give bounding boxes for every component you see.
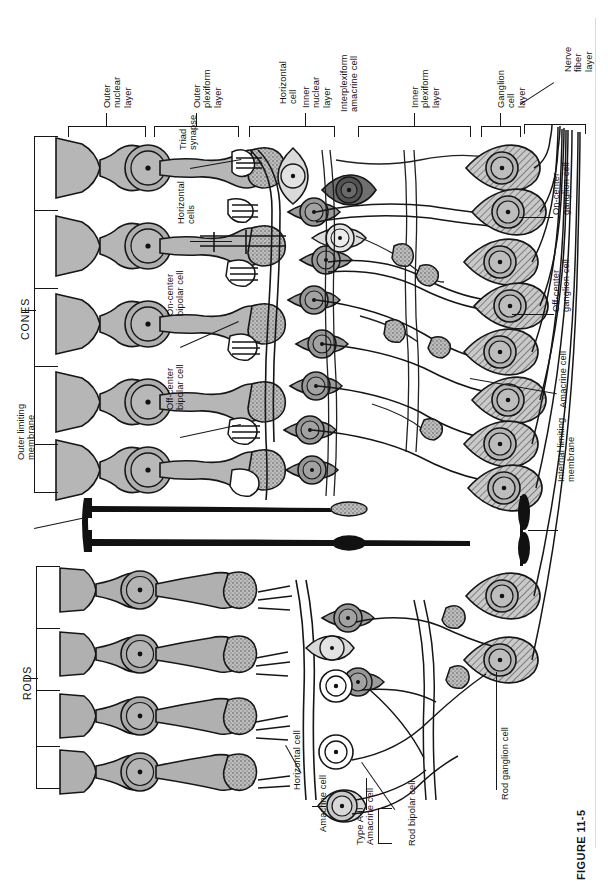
label-line: Inner (410, 86, 420, 108)
label-line: layer (123, 87, 133, 108)
label-off-center-ganglion-cell: Off-center ganglion cell (551, 220, 572, 312)
label-line: Nerve (563, 47, 573, 72)
label-nerve-fiber-layer: Nerve fiber layer (563, 2, 594, 72)
label-internal-limiting-membrane: Internal limiting membrane (556, 386, 577, 482)
label-amacrine-cell-bottom: Amacrine cell (318, 775, 328, 832)
label-line: RODS (21, 666, 33, 700)
label-line: nuclear (112, 77, 122, 108)
label-on-center-ganglion-cell: On-center ganglion cell (551, 125, 572, 215)
label-line: Ganglion (496, 70, 506, 108)
inner-nuclear-layer-cells (278, 148, 492, 484)
leader-off-center-ganglion-cell (512, 314, 554, 315)
label-line: Type A-II (355, 807, 365, 845)
label-horizontal-cells: Horizontal cells (176, 158, 197, 224)
label-rod-ganglion-cell: Rod ganglion cell (500, 727, 510, 800)
label-inner-nuclear-layer: Inner nuclear layer (301, 38, 332, 108)
rod-outer-plexiform-layer (256, 580, 316, 800)
label-line: On-center (165, 274, 175, 316)
label-line: Amacrine cell (318, 775, 328, 832)
leader-internal-limiting-membrane (528, 530, 558, 531)
label-interplexiform-amacrine-cell: Interplexiform amacrine cell (339, 17, 360, 112)
label-triad-synapse: Triad synapse (178, 86, 199, 150)
figure-page: Outer nuclear layer Outer plexiform laye… (0, 0, 608, 894)
label-line: Off-center (165, 368, 175, 410)
label-horizontal-cell-top: Horizontal cell (278, 34, 299, 104)
label-line: plexiform (420, 69, 430, 108)
label-line: Off-center (551, 270, 561, 312)
label-line: Triad (178, 129, 188, 150)
label-line: bipolar cell (175, 270, 185, 316)
label-line: Outer (102, 84, 112, 108)
leader-rod-ganglion-cell (496, 672, 497, 790)
label-line: nuclear (311, 77, 321, 108)
label-line: Rod ganglion cell (500, 727, 510, 800)
leader-on-center-ganglion-cell (519, 217, 553, 218)
page-edge-artifact (595, 18, 596, 848)
label-on-center-bipolar-cell: On-center bipolar cell (165, 238, 186, 316)
label-line: plexiform (202, 69, 212, 108)
label-line: ganglion cell (561, 162, 571, 215)
label-line: On-center (551, 173, 561, 215)
label-line: cell (288, 90, 298, 104)
label-line: cells (186, 205, 196, 224)
label-off-center-bipolar-cell: Off-center bipolar cell (165, 332, 186, 410)
label-line: Rod bipolar cell (407, 780, 417, 846)
label-line: layer (213, 87, 223, 108)
label-line: Amacrine cell (365, 788, 375, 845)
label-line: fiber (573, 53, 583, 72)
rod-photoreceptor-column (60, 568, 257, 794)
label-line: bipolar cell (175, 364, 185, 410)
label-outer-nuclear-layer: Outer nuclear layer (102, 38, 133, 108)
label-line: layer (431, 87, 441, 108)
label-line: cell (506, 94, 516, 108)
label-line: Inner (301, 86, 311, 108)
label-type-a2-amacrine-cell: Type A-II Amacrine cell (355, 759, 376, 845)
label-line: layer (584, 51, 594, 72)
label-line: Internal limiting (556, 418, 566, 482)
label-ganglion-cell-layer: Ganglion cell layer (496, 38, 527, 108)
label-cones: CONES (20, 298, 30, 340)
label-line: synapse (188, 115, 198, 150)
figure-caption: FIGURE 11-5 (576, 810, 586, 880)
label-line: Interplexiform (339, 54, 349, 112)
label-rod-bipolar-cell: Rod bipolar cell (407, 780, 417, 846)
label-line: Horizontal (176, 181, 186, 224)
label-line: layer (322, 87, 332, 108)
label-line: ganglion cell (561, 259, 571, 312)
label-line: membrane (566, 437, 576, 482)
cone-photoreceptor-column (56, 138, 285, 500)
label-line: CONES (19, 298, 31, 340)
muller-cell-outer-limiting-membrane (82, 498, 470, 552)
label-line: Horizontal (278, 61, 288, 104)
figure-caption-text: FIGURE 11-5 (575, 810, 587, 880)
ganglion-cell-layer-cells (464, 145, 548, 683)
label-inner-plexiform-layer: Inner plexiform layer (410, 38, 441, 108)
retina-circuit-diagram (0, 0, 608, 894)
label-line: amacrine cell (349, 56, 359, 112)
label-line: layer (517, 87, 527, 108)
leader-horizontal-cells (190, 241, 232, 242)
rod-bipolar-and-amacrine-cells (306, 600, 492, 822)
label-line: Outer limiting (16, 404, 26, 460)
label-rods: RODS (22, 666, 32, 700)
leader-amacrine-cell-bottom (312, 806, 326, 807)
